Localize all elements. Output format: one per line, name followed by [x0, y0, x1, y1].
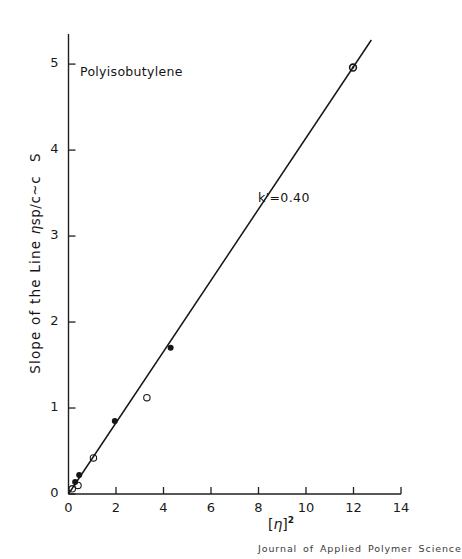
x-tick-label: 0 — [58, 500, 80, 515]
regression-line — [69, 40, 372, 494]
sample-label: Polyisobutylene — [80, 64, 183, 79]
x-axis-exponent: 2 — [288, 515, 294, 525]
y-tick-marks — [69, 64, 76, 494]
x-axis-title: [η]2 — [268, 515, 294, 532]
x-tick-label: 6 — [200, 500, 222, 515]
slope-constant-label: k'=0.40 — [258, 190, 310, 205]
x-tick-marks — [116, 487, 401, 494]
y-tick-label: 0 — [41, 485, 59, 500]
y-tick-label: 2 — [41, 313, 59, 328]
x-tick-label: 10 — [295, 500, 317, 515]
y-axis-title: Slope of the Line ηsp/c~cS — [27, 133, 43, 393]
y-axis-title-prefix: Slope of the Line — [27, 240, 43, 374]
data-point-dotted-circle-center — [352, 66, 354, 68]
y-tick-label: 4 — [41, 141, 59, 156]
y-tick-label: 3 — [41, 227, 59, 242]
x-tick-label: 14 — [390, 500, 412, 515]
x-tick-label: 2 — [105, 500, 127, 515]
x-axis-eta: η — [273, 516, 282, 532]
y-axis-title-expr: sp/c~c — [27, 176, 43, 225]
y-axis-title-eta: η — [27, 225, 43, 234]
data-point-filled-circle — [168, 345, 174, 351]
data-point-filled-circle — [76, 472, 82, 478]
fit-line — [69, 40, 372, 494]
x-tick-label: 12 — [343, 500, 365, 515]
data-point-filled-circle — [72, 479, 78, 485]
data-point-open-circle — [144, 395, 150, 401]
axes-group — [69, 34, 402, 494]
y-tick-label: 1 — [41, 399, 59, 414]
x-tick-label: 4 — [153, 500, 175, 515]
journal-credit: Journal of Applied Polymer Science — [258, 543, 462, 554]
y-tick-label: 5 — [41, 55, 59, 70]
data-point-filled-circle — [112, 418, 118, 424]
x-tick-label: 8 — [248, 500, 270, 515]
y-axis-title-symbol: S — [27, 152, 43, 162]
